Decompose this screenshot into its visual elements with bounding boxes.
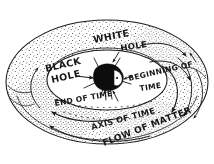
- white-hole-dot: [116, 77, 118, 79]
- figure-root: BLACK HOLE WHITE HOLE BEGINNING OF TIME …: [0, 0, 214, 164]
- cosmology-torus-diagram: BLACK HOLE WHITE HOLE BEGINNING OF TIME …: [0, 0, 214, 164]
